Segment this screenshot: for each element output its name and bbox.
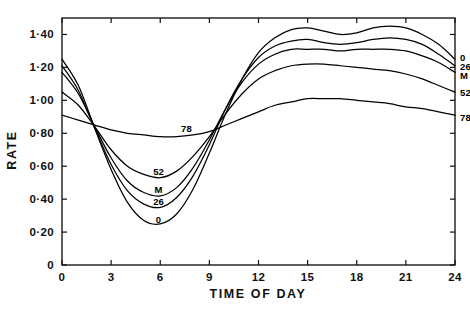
plot-frame bbox=[62, 18, 455, 265]
plot-border bbox=[62, 18, 455, 265]
data-curve-78 bbox=[62, 98, 455, 136]
chart-plot-area: 03691215182124 00·200·400·600·801·001·20… bbox=[0, 0, 470, 311]
y-tick-label: 0·60 bbox=[29, 160, 54, 172]
chart-figure: 03691215182124 00·200·400·600·801·001·20… bbox=[0, 0, 470, 311]
x-axis-title: TIME OF DAY bbox=[209, 287, 306, 301]
series-label-0-trough: 0 bbox=[156, 214, 161, 225]
y-tick-label: 0 bbox=[47, 259, 54, 271]
x-tick-label: 6 bbox=[157, 271, 164, 283]
axis-ticks bbox=[62, 18, 455, 265]
series-label-26-trough: 26 bbox=[153, 196, 164, 207]
series-label-52-trough: 52 bbox=[153, 166, 164, 177]
y-tick-label: 1·00 bbox=[29, 94, 54, 106]
series-label-M-right: M bbox=[460, 70, 468, 81]
x-tick-label: 12 bbox=[252, 271, 266, 283]
y-tick-label: 0·80 bbox=[29, 127, 54, 139]
x-axis-tick-labels: 03691215182124 bbox=[59, 271, 462, 283]
y-tick-label: 0·20 bbox=[29, 226, 54, 238]
series-label-52-right: 52 bbox=[460, 87, 470, 98]
y-tick-label: 1·40 bbox=[29, 28, 54, 40]
y-tick-label: 0·40 bbox=[29, 193, 54, 205]
y-axis-title: RATE bbox=[5, 130, 19, 170]
y-axis-tick-labels: 00·200·400·600·801·001·201·40 bbox=[29, 28, 54, 271]
x-tick-label: 3 bbox=[108, 271, 115, 283]
series-inline-labels: 52M26078026M5278 bbox=[153, 52, 470, 224]
x-tick-label: 9 bbox=[206, 271, 213, 283]
data-curve-M bbox=[62, 49, 455, 196]
x-tick-label: 24 bbox=[448, 271, 462, 283]
data-curve-0 bbox=[62, 26, 455, 224]
x-tick-label: 0 bbox=[59, 271, 66, 283]
x-tick-label: 18 bbox=[350, 271, 364, 283]
series-label-78-trough: 78 bbox=[181, 123, 192, 134]
y-tick-label: 1·20 bbox=[29, 61, 54, 73]
series-label-M-trough: M bbox=[155, 184, 163, 195]
x-tick-label: 21 bbox=[399, 271, 413, 283]
data-curves bbox=[62, 26, 455, 224]
data-curve-52 bbox=[62, 64, 455, 178]
x-tick-label: 15 bbox=[301, 271, 315, 283]
data-curve-26 bbox=[62, 38, 455, 208]
series-label-78-right: 78 bbox=[460, 112, 470, 123]
